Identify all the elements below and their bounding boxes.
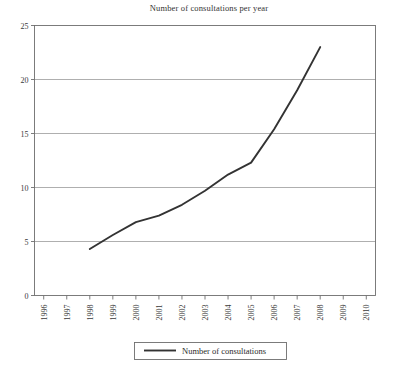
data-series-group bbox=[90, 47, 320, 249]
x-tick-label: 2004 bbox=[224, 305, 233, 321]
gridlines-group bbox=[35, 80, 376, 242]
x-tick-label: 2007 bbox=[293, 305, 302, 321]
x-tick-label: 1998 bbox=[86, 305, 95, 321]
y-tick-label: 20 bbox=[21, 76, 29, 85]
chart-legend: Number of consultations bbox=[135, 343, 287, 360]
data-line bbox=[90, 47, 320, 249]
legend-label: Number of consultations bbox=[182, 346, 266, 356]
x-tick-label: 2009 bbox=[339, 305, 348, 321]
y-axis-labels: 0510152025 bbox=[21, 22, 29, 301]
y-tick-label: 0 bbox=[25, 292, 29, 301]
x-tick-label: 2006 bbox=[270, 305, 279, 321]
x-tick-label: 2010 bbox=[362, 305, 371, 321]
chart-container: Number of consultations per year 0510152… bbox=[0, 0, 418, 369]
x-tick-label: 1996 bbox=[40, 305, 49, 321]
x-tick-label: 2000 bbox=[132, 305, 141, 321]
x-tick-label: 1999 bbox=[109, 305, 118, 321]
x-tick-label: 2008 bbox=[316, 305, 325, 321]
x-tick-label: 2005 bbox=[247, 305, 256, 321]
y-tick-label: 25 bbox=[21, 22, 29, 31]
y-tick-marks bbox=[31, 26, 35, 296]
x-tick-label: 2003 bbox=[201, 305, 210, 321]
y-tick-label: 10 bbox=[21, 184, 29, 193]
x-tick-marks bbox=[44, 296, 367, 300]
x-tick-label: 2001 bbox=[155, 305, 164, 321]
plot-border bbox=[35, 26, 376, 296]
y-tick-label: 5 bbox=[25, 238, 29, 247]
x-tick-label: 1997 bbox=[63, 305, 72, 321]
plot-frame bbox=[35, 26, 376, 296]
x-tick-label: 2002 bbox=[178, 305, 187, 321]
x-axis-labels: 1996199719981999200020012002200320042005… bbox=[40, 305, 372, 321]
chart-plot: 0510152025 19961997199819992000200120022… bbox=[0, 0, 418, 369]
y-tick-label: 15 bbox=[21, 130, 29, 139]
